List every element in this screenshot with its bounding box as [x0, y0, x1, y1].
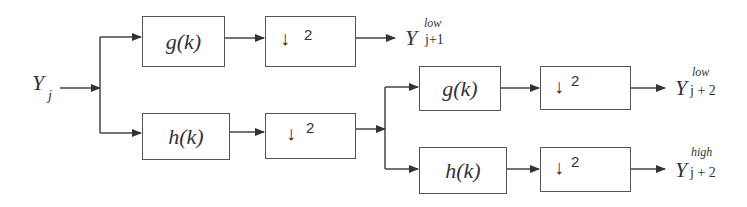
connector-lines	[0, 0, 747, 207]
downsample-3-factor: 2	[571, 72, 579, 89]
output-2-superscript: low	[692, 65, 709, 80]
filter-g1-label: g(k)	[166, 29, 201, 55]
filter-h2-label: h(k)	[445, 158, 480, 184]
input-symbol: Y	[32, 70, 44, 95]
downsample-2-factor: 2	[306, 119, 314, 136]
output-2-subscript: j + 2	[690, 83, 716, 99]
output-3-label: Y high j + 2	[675, 157, 687, 183]
downsample-4-factor: 2	[571, 153, 579, 170]
filter-h1-block: h(k)	[142, 113, 230, 160]
output-1-label: Y low j+1	[405, 25, 417, 51]
output-1-subscript: j+1	[425, 32, 444, 48]
down-arrow-icon: ↓	[286, 122, 296, 145]
input-subscript: j	[48, 88, 52, 104]
output-2-label: Y low j + 2	[675, 75, 687, 101]
filter-h2-block: h(k)	[419, 147, 507, 194]
downsample-2-block: ↓ 2	[265, 113, 356, 159]
output-3-subscript: j + 2	[690, 165, 716, 181]
down-arrow-icon: ↓	[554, 75, 564, 98]
output-2-symbol: Y	[675, 75, 687, 100]
input-label: Y j	[32, 70, 44, 96]
downsample-4-block: ↓ 2	[540, 147, 631, 192]
output-3-superscript: high	[691, 145, 712, 160]
downsample-1-block: ↓ 2	[265, 16, 356, 67]
filter-g2-block: g(k)	[419, 66, 501, 111]
filter-h1-label: h(k)	[168, 124, 203, 150]
filter-g2-label: g(k)	[442, 76, 477, 102]
downsample-1-factor: 2	[304, 26, 312, 43]
output-1-superscript: low	[424, 16, 441, 31]
down-arrow-icon: ↓	[554, 156, 564, 179]
filter-g1-block: g(k)	[142, 16, 225, 67]
output-3-symbol: Y	[675, 157, 687, 182]
down-arrow-icon: ↓	[280, 27, 290, 50]
output-1-symbol: Y	[405, 25, 417, 50]
downsample-3-block: ↓ 2	[540, 66, 631, 110]
